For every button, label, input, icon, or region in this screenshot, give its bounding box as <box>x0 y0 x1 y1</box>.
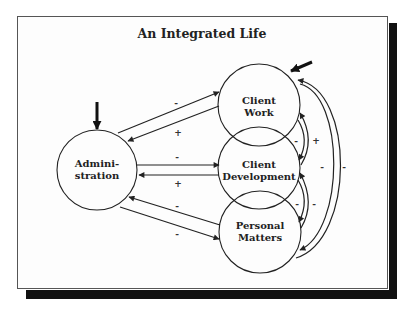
node-label-line: Personal <box>236 220 285 231</box>
edge-sign-label: - <box>295 199 299 209</box>
edge-sign-label: + <box>174 179 182 189</box>
diagram-title: An Integrated Life <box>137 26 267 41</box>
edge-client-work-to-client-dev <box>298 120 304 160</box>
node-personal-matters: Personal Matters <box>219 191 301 273</box>
edge-sign-label: - <box>342 162 346 172</box>
node-label-line: Development <box>222 171 296 182</box>
node-administration: Admini- stration <box>57 130 137 210</box>
node-label-line: Admini- <box>74 158 119 169</box>
edge-sign-label: - <box>175 229 179 239</box>
node-label-line: Matters <box>238 232 282 243</box>
edge-sign-label: - <box>320 162 324 172</box>
edge-sign-label: - <box>175 201 179 211</box>
node-client-work: Client Work <box>218 64 300 146</box>
edge-sign-label: - <box>174 98 178 108</box>
edge-sign-label: - <box>312 199 316 209</box>
edge-admin-to-client-work <box>118 92 219 133</box>
edge-sign-label: - <box>294 136 298 146</box>
edge-sign-label: + <box>174 128 182 138</box>
input-arrow-icon <box>291 62 312 71</box>
node-client-development: Client Development <box>218 127 300 209</box>
edge-sign-label: - <box>175 152 179 162</box>
node-label-line: Client <box>242 95 276 106</box>
node-label-line: Client <box>242 159 276 170</box>
node-label-line: stration <box>75 170 120 181</box>
node-label-line: Work <box>243 107 274 118</box>
edge-client-dev-to-personal <box>298 180 304 222</box>
edge-admin-to-personal <box>120 207 219 239</box>
integrated-life-diagram: An Integrated Life Admini- stration Clie… <box>0 0 411 309</box>
edge-sign-label: + <box>312 136 320 146</box>
